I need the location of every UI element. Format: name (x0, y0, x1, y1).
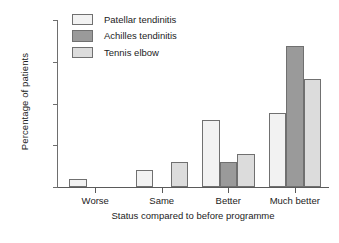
legend-label: Tennis elbow (104, 48, 159, 58)
x-category-label: Same (149, 195, 174, 206)
bar (304, 79, 322, 187)
x-category-label: Better (216, 195, 241, 206)
legend-item: Achilles tendinitis (72, 28, 242, 45)
x-category-label: Worse (82, 195, 109, 206)
x-tick-mark (228, 188, 229, 193)
y-tick-mark (53, 187, 58, 188)
chart-legend: Patellar tendinitisAchilles tendinitisTe… (72, 11, 242, 61)
bar (136, 170, 154, 187)
x-tick-mark (95, 188, 96, 193)
bar (202, 120, 220, 187)
bar (171, 162, 189, 187)
legend-item: Tennis elbow (72, 44, 242, 61)
bar (269, 113, 287, 187)
y-axis-title: Percentage of patients (19, 17, 30, 187)
x-tick-mark (295, 188, 296, 193)
x-axis-title: Status compared to before programme (57, 210, 329, 221)
bar (220, 162, 238, 187)
legend-label: Achilles tendinitis (104, 31, 177, 41)
x-category-label: Much better (270, 195, 320, 206)
bar (69, 179, 87, 187)
legend-item: Patellar tendinitis (72, 11, 242, 28)
x-axis-line (57, 187, 329, 188)
bar-chart-figure: Percentage of patients 0255075100 WorseS… (0, 0, 339, 243)
bar (286, 46, 304, 187)
legend-swatch (72, 14, 93, 26)
legend-swatch (72, 30, 93, 42)
legend-swatch (72, 47, 93, 59)
bar (237, 154, 255, 187)
legend-label: Patellar tendinitis (104, 15, 176, 25)
x-axis-category-labels: WorseSameBetterMuch better (57, 195, 329, 211)
x-tick-mark (162, 188, 163, 193)
